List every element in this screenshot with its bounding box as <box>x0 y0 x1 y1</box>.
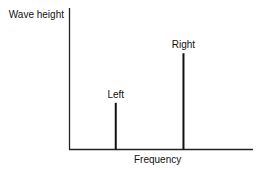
bar-label-left: Left <box>107 89 124 100</box>
bar-label-right: Right <box>172 39 196 50</box>
x-axis-label: Frequency <box>134 154 181 165</box>
y-axis-label: Wave height <box>9 9 64 20</box>
bars: LeftRight <box>107 39 195 149</box>
chart: Wave height Frequency LeftRight <box>0 0 268 171</box>
